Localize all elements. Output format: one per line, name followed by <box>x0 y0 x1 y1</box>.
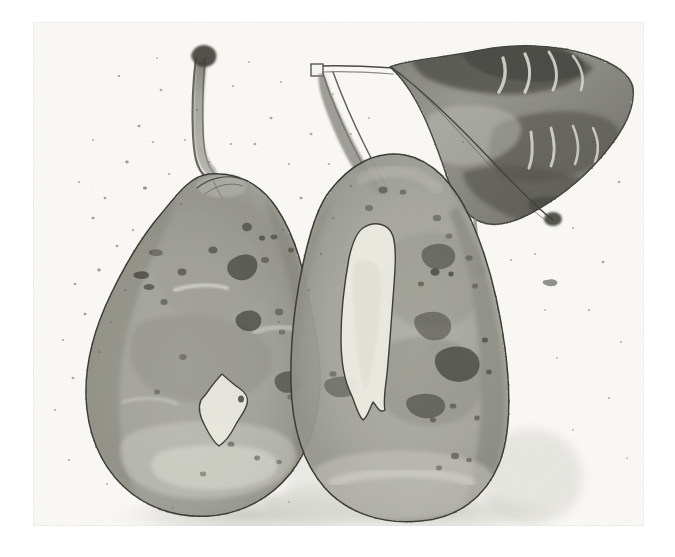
leaf-tip-blot <box>544 212 562 226</box>
paper-sheet <box>33 22 644 526</box>
painting-canvas <box>33 22 644 526</box>
artboard: Two Pears with Leaf Ink and watercolour … <box>0 0 675 557</box>
